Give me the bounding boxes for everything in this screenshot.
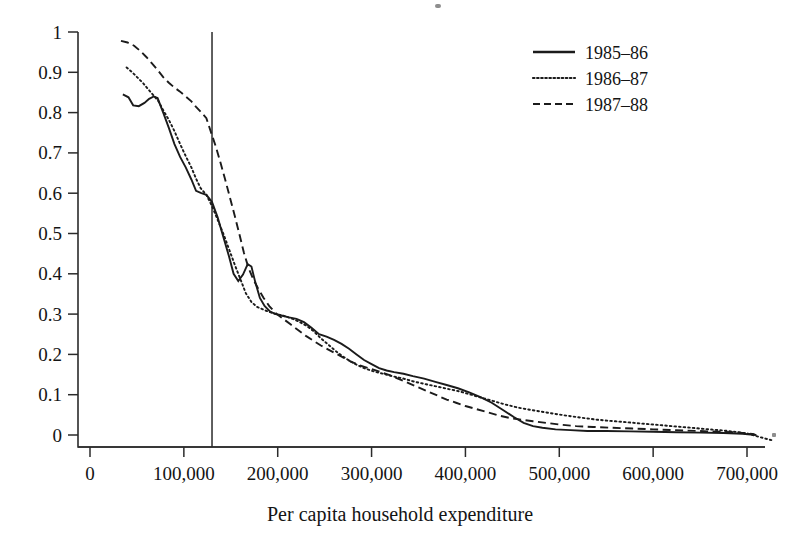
y-tick-label: 0.6 bbox=[38, 183, 62, 204]
x-tick-label: 700,000 bbox=[716, 463, 778, 484]
data-series-group bbox=[121, 41, 773, 441]
x-tick-label: 200,000 bbox=[247, 463, 309, 484]
series-line-1985-86 bbox=[123, 94, 757, 435]
legend-label-2: 1986–87 bbox=[585, 69, 648, 89]
legend-label-3: 1987–88 bbox=[585, 95, 648, 115]
y-tick-label: 0.9 bbox=[38, 62, 62, 83]
y-tick-label: 0.8 bbox=[38, 102, 62, 123]
y-tick-label: 0.1 bbox=[38, 384, 62, 405]
series-line-1986-87 bbox=[127, 67, 774, 440]
y-axis-ticks bbox=[68, 32, 78, 435]
y-tick-label: 0.2 bbox=[38, 344, 62, 365]
x-tick-label: 0 bbox=[85, 463, 95, 484]
x-tick-label: 100,000 bbox=[153, 463, 215, 484]
y-tick-label: 0.7 bbox=[38, 142, 62, 163]
y-tick-label: 0.3 bbox=[38, 304, 62, 325]
x-axis-ticks bbox=[90, 447, 747, 457]
y-tick-label: 0.4 bbox=[38, 263, 62, 284]
legend-label-1: 1985–86 bbox=[585, 43, 648, 63]
x-tick-label: 300,000 bbox=[341, 463, 403, 484]
y-axis-tick-labels: 00.10.20.30.40.50.60.70.80.91 bbox=[38, 22, 62, 446]
y-tick-label: 0.5 bbox=[38, 223, 62, 244]
chart-legend: 1985–861986–871987–88 bbox=[533, 43, 648, 115]
x-tick-label: 400,000 bbox=[435, 463, 497, 484]
y-tick-label: 1 bbox=[53, 22, 63, 43]
chart-figure: 00.10.20.30.40.50.60.70.80.91 0100,00020… bbox=[0, 0, 806, 553]
scan-artifact-speck bbox=[435, 4, 441, 8]
y-tick-label: 0 bbox=[53, 425, 63, 446]
x-axis-tick-labels: 0100,000200,000300,000400,000500,000600,… bbox=[85, 463, 778, 484]
x-axis-title: Per capita household expenditure bbox=[267, 503, 533, 526]
chart-canvas: 00.10.20.30.40.50.60.70.80.91 0100,00020… bbox=[0, 0, 806, 553]
series-line-1987-88 bbox=[121, 41, 755, 434]
x-tick-label: 600,000 bbox=[622, 463, 684, 484]
x-tick-label: 500,000 bbox=[528, 463, 590, 484]
y-axis-line bbox=[78, 32, 765, 447]
scan-artifact-speck-right bbox=[772, 433, 776, 437]
